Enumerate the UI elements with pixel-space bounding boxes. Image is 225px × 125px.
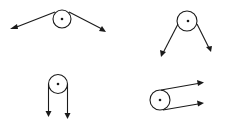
arrow-left-icon bbox=[10, 24, 18, 29]
pulley-a bbox=[10, 10, 106, 32]
pulley-axle bbox=[57, 83, 60, 86]
arrow-down-right-icon bbox=[206, 46, 212, 52]
arrow-right-icon bbox=[197, 101, 204, 107]
pulley-diagram bbox=[0, 0, 225, 125]
rope-right bbox=[197, 24, 209, 48]
pulley-axle bbox=[159, 99, 162, 102]
rope-left bbox=[163, 24, 178, 53]
pulley-axle bbox=[187, 20, 190, 23]
arrow-right-icon bbox=[99, 26, 106, 32]
rope-left bbox=[14, 12, 55, 28]
arrow-down-left-icon bbox=[160, 50, 166, 57]
arrow-right-icon bbox=[197, 80, 204, 86]
pulley-axle bbox=[61, 18, 64, 21]
pulley-d bbox=[150, 80, 204, 110]
rope-right bbox=[69, 12, 102, 29]
arrow-down-icon bbox=[46, 111, 52, 117]
pulley-c bbox=[46, 75, 71, 120]
arrow-down-icon bbox=[65, 113, 71, 119]
pulley-b bbox=[160, 11, 212, 57]
rope-top bbox=[161, 84, 198, 91]
